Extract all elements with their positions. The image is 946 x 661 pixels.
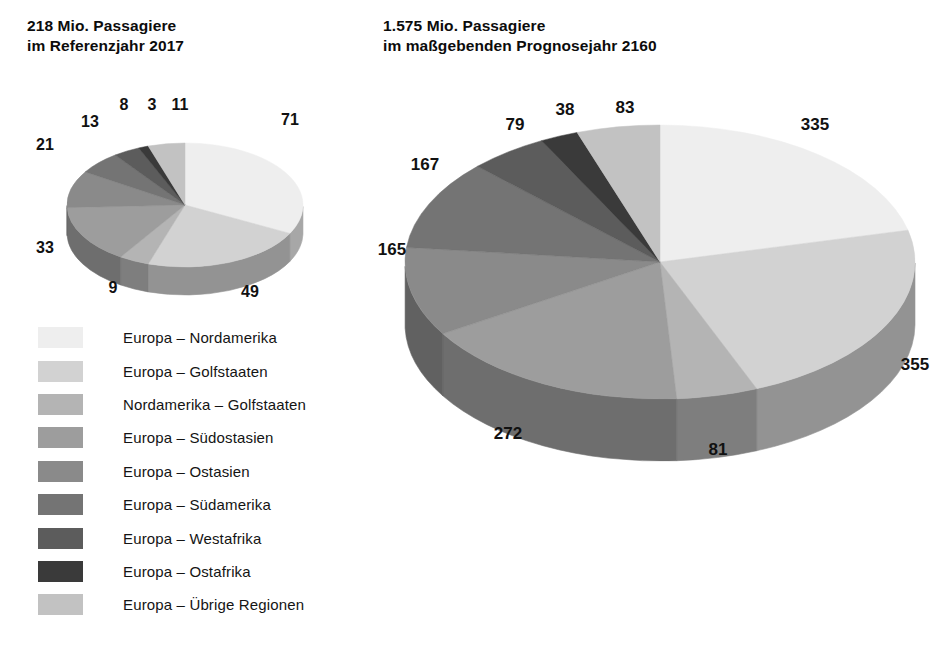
legend-label-6: Europa – Westafrika — [123, 530, 261, 547]
pie-2160-value-label-7: 38 — [556, 100, 575, 120]
legend-item-5[interactable]: Europa – Südamerika — [38, 488, 338, 521]
legend-item-7[interactable]: Europa – Ostafrika — [38, 555, 338, 588]
pie-2160-value-label-4: 165 — [378, 240, 406, 260]
legend-swatch-5 — [38, 494, 83, 515]
pie-2160-value-label-0: 335 — [801, 115, 829, 135]
pie-2017-value-label-2: 9 — [109, 279, 118, 297]
pie-2017-value-label-8: 11 — [172, 96, 189, 114]
legend-swatch-4 — [38, 461, 83, 482]
chart-canvas: 218 Mio. Passagiere im Referenzjahr 2017… — [0, 0, 946, 661]
legend-item-8[interactable]: Europa – Übrige Regionen — [38, 588, 338, 621]
legend-label-3: Europa – Südostasien — [123, 429, 274, 446]
pie-2160-value-label-1: 355 — [901, 355, 929, 375]
pie-2017-value-label-4: 21 — [36, 136, 54, 154]
chart-title-left: 218 Mio. Passagiere im Referenzjahr 2017 — [27, 16, 184, 56]
pie-2017-value-label-7: 3 — [148, 96, 157, 114]
legend-label-2: Nordamerika – Golfstaaten — [123, 396, 306, 413]
legend-label-8: Europa – Übrige Regionen — [123, 596, 304, 613]
legend-item-3[interactable]: Europa – Südostasien — [38, 421, 338, 454]
pie-2017-value-label-1: 49 — [241, 283, 259, 301]
legend-swatch-6 — [38, 528, 83, 549]
legend-item-4[interactable]: Europa – Ostasien — [38, 455, 338, 488]
legend-label-0: Europa – Nordamerika — [123, 329, 277, 346]
pie-chart-2017 — [20, 95, 360, 315]
legend-label-1: Europa – Golfstaaten — [123, 363, 268, 380]
pie-2017-value-label-3: 33 — [36, 239, 54, 257]
pie-2017-value-label-0: 71 — [281, 111, 299, 129]
chart-title-right: 1.575 Mio. Passagiere im maßgebenden Pro… — [383, 16, 657, 56]
legend-label-7: Europa – Ostafrika — [123, 563, 251, 580]
legend-swatch-3 — [38, 427, 83, 448]
legend-swatch-8 — [38, 594, 83, 615]
chart-legend: Europa – NordamerikaEuropa – Golfstaaten… — [38, 321, 338, 622]
pie-2160-value-label-3: 272 — [494, 424, 522, 444]
legend-item-0[interactable]: Europa – Nordamerika — [38, 321, 338, 354]
pie-2017-value-label-6: 8 — [120, 96, 129, 114]
pie-2160-value-label-2: 81 — [709, 440, 728, 460]
pie-2160-value-label-6: 79 — [506, 115, 525, 135]
legend-label-4: Europa – Ostasien — [123, 463, 250, 480]
pie-chart-2160 — [370, 95, 946, 485]
legend-swatch-1 — [38, 361, 83, 382]
legend-swatch-0 — [38, 327, 83, 348]
pie-2160-value-label-8: 83 — [616, 98, 635, 118]
pie-2160-value-label-5: 167 — [411, 155, 439, 175]
legend-label-5: Europa – Südamerika — [123, 496, 271, 513]
legend-swatch-2 — [38, 394, 83, 415]
legend-swatch-7 — [38, 561, 83, 582]
legend-item-2[interactable]: Nordamerika – Golfstaaten — [38, 388, 338, 421]
legend-item-6[interactable]: Europa – Westafrika — [38, 521, 338, 554]
pie-chart-2017-svg — [20, 95, 360, 315]
pie-chart-2160-svg — [370, 95, 946, 485]
pie-2017-value-label-5: 13 — [81, 113, 99, 131]
legend-item-1[interactable]: Europa – Golfstaaten — [38, 354, 338, 387]
